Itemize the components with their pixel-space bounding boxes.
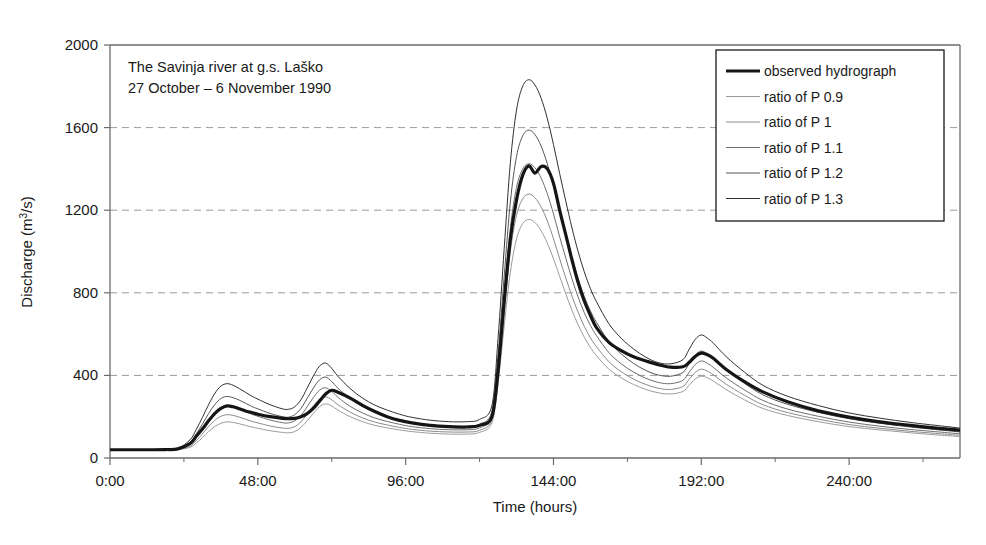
legend-label: ratio of P 1.2	[764, 165, 843, 181]
legend-label: ratio of P 1.3	[764, 191, 843, 207]
legend-label: ratio of P 1	[764, 114, 832, 130]
y-tick-label: 1600	[65, 119, 98, 136]
x-tick-label: 48:00	[239, 472, 277, 489]
y-tick-label: 2000	[65, 36, 98, 53]
legend-label: ratio of P 0.9	[764, 89, 843, 105]
y-tick-label: 800	[73, 284, 98, 301]
x-axis-title: Time (hours)	[493, 498, 577, 515]
x-tick-label: 192:00	[678, 472, 724, 489]
x-tick-label: 144:00	[531, 472, 577, 489]
hydrograph-figure: 0400800120016002000 0:0048:0096:00144:00…	[0, 0, 986, 545]
y-axis-title: Discharge (m3/s)	[18, 196, 36, 307]
x-tick-label: 240:00	[826, 472, 872, 489]
y-tick-label: 0	[90, 449, 98, 466]
x-tick-label: 0:00	[95, 472, 124, 489]
x-axis-tick-labels: 0:0048:0096:00144:00192:00240:00	[95, 472, 872, 489]
y-tick-label: 1200	[65, 201, 98, 218]
series-line	[110, 194, 960, 450]
x-tick-label: 96:00	[387, 472, 425, 489]
legend[interactable]: observed hydrographratio of P 0.9ratio o…	[716, 50, 944, 221]
y-axis-tick-labels: 0400800120016002000	[65, 36, 98, 466]
legend-label: ratio of P 1.1	[764, 140, 843, 156]
chart-canvas: 0400800120016002000 0:0048:0096:00144:00…	[0, 0, 986, 545]
legend-label: observed hydrograph	[764, 63, 896, 79]
annotation-line-1: The Savinja river at g.s. Laško	[128, 59, 323, 75]
annotation-line-2: 27 October – 6 November 1990	[128, 80, 331, 96]
y-tick-label: 400	[73, 366, 98, 383]
